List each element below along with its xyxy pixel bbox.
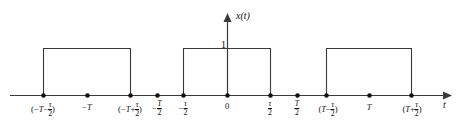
tick-label-neg-tau-half: −τ2 (179, 100, 188, 118)
tick-label-T-half: T2 (294, 100, 299, 118)
tick-label-neg-T-minus-tau-half: (−T−τ2) (31, 101, 55, 119)
tick-label-neg-T-plus-tau-half: (−T+τ2) (118, 101, 142, 119)
pulse-left (44, 49, 131, 96)
fraction-denominator: 2 (135, 110, 139, 118)
fraction-denominator: 2 (331, 110, 335, 118)
tick-dot-T (367, 93, 372, 98)
fraction-T-over-2: T2 (157, 100, 162, 118)
fraction-denominator: 2 (157, 109, 162, 117)
tick-dot-neg-T-plus-tau-half (128, 93, 133, 98)
amplitude-value-label: 1 (221, 40, 226, 50)
pulse-train-plot (0, 0, 459, 125)
tick-dot-neg-T-half (155, 93, 160, 98)
amplitude-axis-arrow-icon (224, 13, 232, 22)
paren-close: ) (52, 104, 55, 114)
tick-dot-neg-T (85, 93, 90, 98)
x-axis-label: t (443, 100, 446, 110)
tick-dot-T-plus-tau-half (409, 93, 414, 98)
pulse-right (327, 49, 412, 96)
fraction-tau-over-2: τ2 (331, 101, 335, 119)
tick-label-neg-T-half: −T2 (152, 100, 162, 118)
tick-dot-T-minus-tau-half (324, 93, 329, 98)
tick-label-T-minus-tau-half: (T−τ2) (318, 101, 337, 119)
paren-close: ) (139, 104, 142, 114)
tick-dot-neg-T-minus-tau-half (41, 93, 46, 98)
amplitude-axis (224, 13, 232, 96)
tick-label-T-plus-tau-half: (T+τ2) (402, 101, 421, 119)
fraction-denominator: 2 (48, 110, 52, 118)
fraction-T-over-2: T2 (294, 100, 299, 118)
tick-label-zero: 0 (225, 102, 229, 111)
pulse-train-figure: 1 x(t) t (−T−τ2) −T (−T+τ2) −T2 −τ2 0 τ2… (0, 0, 459, 125)
tick-dot-zero (225, 93, 230, 98)
symbol-T: T (367, 102, 372, 112)
fraction-denominator: 2 (415, 110, 419, 118)
fraction-tau-over-2: τ2 (183, 100, 187, 118)
fraction-denominator: 2 (294, 109, 299, 117)
fraction-tau-over-2: τ2 (48, 101, 52, 119)
tick-dot-neg-tau-half (181, 93, 186, 98)
time-axis (10, 92, 452, 100)
y-axis-label: x(t) (236, 11, 250, 21)
tick-label-tau-half: τ2 (268, 100, 272, 118)
fraction-tau-over-2: τ2 (268, 100, 272, 118)
fraction-tau-over-2: τ2 (415, 101, 419, 119)
fraction-denominator: 2 (183, 109, 187, 117)
tick-label-neg-T: −T (82, 103, 92, 112)
paren-close: ) (335, 104, 338, 114)
symbol-T: T (87, 102, 92, 112)
tick-dot-tau-half (268, 93, 273, 98)
tick-dot-T-half (295, 93, 300, 98)
fraction-tau-over-2: τ2 (135, 101, 139, 119)
fraction-denominator: 2 (268, 109, 272, 117)
tick-label-T: T (367, 103, 372, 112)
paren-close: ) (419, 104, 422, 114)
